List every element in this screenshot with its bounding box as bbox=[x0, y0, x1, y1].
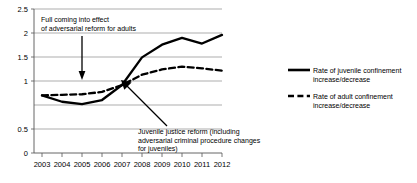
y-tick-label-0: 0 bbox=[24, 149, 28, 158]
x-tick-label-2008: 2008 bbox=[134, 160, 151, 169]
y-tick-label-2: 2 bbox=[24, 29, 28, 38]
y-tick-label-1.5: 1.5 bbox=[18, 53, 28, 62]
x-tick-label-2011: 2011 bbox=[194, 160, 210, 169]
y-tick-label-0.5: 0.5 bbox=[18, 125, 28, 134]
annotation-juvenile-line2: adversarial criminal procedure changes bbox=[138, 137, 261, 145]
line-chart: 2.5 2 1.5 1 0.5 0 2003 2004 2005 2006 bbox=[0, 0, 417, 183]
y-tick-label-2.5: 2.5 bbox=[18, 5, 28, 14]
chart-container: 2.5 2 1.5 1 0.5 0 2003 2004 2005 2006 bbox=[0, 0, 417, 183]
legend-label-juvenile-line1: Rate of juvenile confinement bbox=[313, 67, 401, 75]
legend-label-juvenile-line2: increase/decrease bbox=[313, 76, 370, 83]
annotation-adult-line2: of adversarial reform for adults bbox=[41, 25, 136, 32]
annotation-adult-line1: Full coming into effect bbox=[41, 16, 109, 24]
x-tick-label-2003: 2003 bbox=[34, 160, 51, 169]
x-tick-label-2012: 2012 bbox=[214, 160, 231, 169]
annotation-juvenile-line1: Juvenile justice reform (including bbox=[138, 128, 240, 136]
x-tick-label-2010: 2010 bbox=[174, 160, 191, 169]
annotation-juvenile-line3: for juveniles) bbox=[138, 145, 178, 153]
x-tick-label-2005: 2005 bbox=[74, 160, 91, 169]
x-tick-label-2009: 2009 bbox=[154, 160, 171, 169]
legend-label-adult-line2: increase/decrease bbox=[313, 102, 370, 109]
x-tick-label-2004: 2004 bbox=[54, 160, 71, 169]
x-tick-label-2006: 2006 bbox=[94, 160, 111, 169]
x-tick-label-2007: 2007 bbox=[114, 160, 131, 169]
legend-label-adult-line1: Rate of adult confinement bbox=[313, 93, 393, 100]
y-tick-label-1: 1 bbox=[24, 77, 28, 86]
